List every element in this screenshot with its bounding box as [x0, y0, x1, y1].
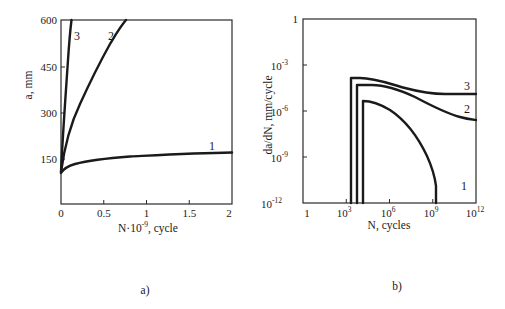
chart-b-ytick-label: 1 — [293, 13, 299, 25]
chart-a-curve-1 — [61, 153, 232, 174]
chart-b-ylabel: da/dN, mm/cycle — [262, 75, 275, 154]
chart-a-ytick-label: 300 — [41, 107, 58, 119]
chart-b-xtick-label: 1012 — [466, 205, 485, 219]
chart-a-curve-3 — [61, 20, 72, 172]
chart-a-ylabel: a, mm — [22, 71, 35, 100]
chart-b-xtick-label: 109 — [424, 205, 439, 219]
chart-a-ytick-label: 150 — [41, 153, 58, 165]
chart-b-ytick-label: 10-12 — [261, 196, 282, 210]
chart-a-caption: a) — [141, 284, 150, 297]
chart-a-curve-label-2: 2 — [108, 29, 114, 43]
chart-b-xtick-label: 1 — [304, 207, 310, 219]
chart-a: 600 450 300 150 0 0.5 1 1.5 2 a, mm N·10… — [22, 14, 232, 297]
chart-a-curve-2 — [61, 20, 126, 172]
chart-a-xlabel-main: N·10 — [118, 222, 142, 234]
chart-a-ytick-label: 600 — [41, 14, 58, 26]
chart-a-curve-label-1: 1 — [209, 139, 215, 153]
chart-a-xtick-label: 1 — [144, 207, 150, 219]
chart-b-curve-label-1: 1 — [461, 179, 467, 193]
chart-b-curve-label-2: 2 — [464, 102, 470, 116]
chart-a-curve-label-3: 3 — [74, 29, 80, 43]
chart-b-caption: b) — [392, 280, 402, 293]
chart-a-xtick-label: 1.5 — [182, 207, 196, 219]
chart-a-xlabel-rest: , cycle — [148, 222, 178, 235]
chart-a-xlabel: N·10-9, cycle — [118, 220, 178, 235]
chart-a-xtick-label: 0.5 — [97, 207, 111, 219]
chart-a-frame — [61, 20, 232, 204]
chart-b-xtick-label: 103 — [337, 205, 352, 219]
chart-a-xtick-label: 0 — [58, 207, 64, 219]
chart-b-curve-1 — [363, 101, 436, 203]
chart-b-ytick-label: 10-3 — [271, 58, 288, 72]
chart-b: 1 10-3 10-6 10-9 10-12 1 103 106 109 101… — [261, 13, 485, 293]
chart-b-curve-label-3: 3 — [464, 79, 470, 93]
chart-b-xtick-label: 106 — [381, 205, 396, 219]
chart-a-xtick-label: 2 — [226, 207, 232, 219]
chart-b-xlabel: N, cycles — [368, 219, 411, 232]
figure: 600 450 300 150 0 0.5 1 1.5 2 a, mm N·10… — [0, 0, 505, 309]
chart-a-ytick-label: 450 — [41, 61, 58, 73]
